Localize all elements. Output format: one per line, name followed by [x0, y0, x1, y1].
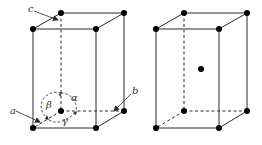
right-unit-cell [153, 10, 250, 131]
atom [244, 10, 250, 16]
atom [58, 10, 64, 16]
label-beta: β [45, 99, 52, 110]
label-alpha: α [71, 92, 78, 103]
atom [93, 26, 99, 32]
edge [219, 111, 247, 128]
atom [30, 26, 36, 32]
c-pointer-arrow [34, 11, 58, 20]
hidden-edge [156, 111, 184, 128]
label-gamma: γ [62, 115, 68, 126]
left-unit-cell: c a b α β γ [10, 3, 138, 131]
atom [58, 108, 64, 114]
atom [153, 125, 159, 131]
top-face [156, 13, 247, 29]
label-b: b [132, 85, 138, 96]
atom [181, 10, 187, 16]
atom [121, 10, 127, 16]
body-center-atom [198, 66, 204, 72]
atom [93, 125, 99, 131]
label-c: c [28, 3, 34, 14]
crystal-unit-cells-diagram: c a b α β γ [0, 0, 262, 145]
atom [244, 108, 250, 114]
atom [121, 108, 127, 114]
label-a: a [10, 105, 16, 116]
atom [30, 125, 36, 131]
atom [216, 26, 222, 32]
a-pointer-arrow [16, 111, 40, 122]
edge [96, 111, 124, 128]
atom [153, 26, 159, 32]
atom [216, 125, 222, 131]
atom [181, 108, 187, 114]
